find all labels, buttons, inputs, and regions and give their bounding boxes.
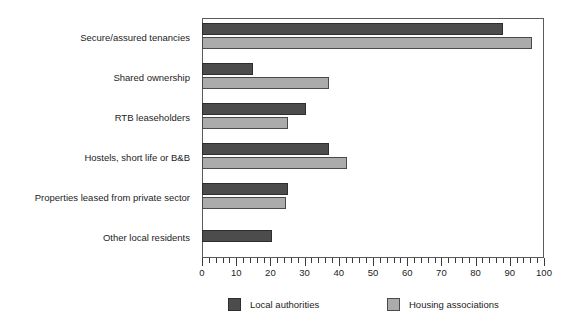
x-axis-minor-tick [352,258,353,263]
x-axis-minor-tick [387,258,388,263]
x-axis-minor-tick [318,258,319,263]
x-axis-minor-tick [250,258,251,263]
x-axis-minor-tick [311,258,312,263]
x-axis-tick-label: 90 [505,267,516,279]
x-axis-minor-tick [291,258,292,263]
x-axis-minor-tick [216,258,217,263]
x-axis-minor-tick [284,258,285,263]
x-axis-minor-tick [489,258,490,263]
x-axis-major-tick [544,258,545,266]
x-axis-ticks [202,258,544,266]
x-axis-minor-tick [448,258,449,263]
x-axis-minor-tick [469,258,470,263]
x-axis-minor-tick [394,258,395,263]
x-axis-tick-label: 80 [470,267,481,279]
x-axis-minor-tick [523,258,524,263]
x-axis-tick-label: 10 [231,267,242,279]
category-label: Other local residents [0,232,190,243]
x-axis-major-tick [305,258,306,266]
x-axis-tick-label: 70 [436,267,447,279]
x-axis-tick-label: 60 [402,267,413,279]
x-axis-tick-labels: 0102030405060708090100 [202,267,544,281]
bar [202,197,286,209]
x-axis-minor-tick [346,258,347,263]
x-axis-minor-tick [298,258,299,263]
legend-label: Local authorities [250,299,319,311]
legend-swatch-icon [387,298,400,311]
x-axis-major-tick [202,258,203,266]
bar [202,117,288,129]
bar [202,103,306,115]
x-axis-minor-tick [359,258,360,263]
plot-area [202,18,544,258]
bar [202,77,329,89]
chart-legend: Local authoritiesHousing associations [202,298,544,318]
x-axis-minor-tick [380,258,381,263]
x-axis-minor-tick [229,258,230,263]
x-axis-minor-tick [482,258,483,263]
x-axis-minor-tick [435,258,436,263]
bar [202,143,329,155]
x-axis-tick-label: 30 [299,267,310,279]
x-axis-minor-tick [243,258,244,263]
category-label: Secure/assured tenancies [0,32,190,43]
bar [202,230,272,242]
x-axis-minor-tick [332,258,333,263]
x-axis-minor-tick [462,258,463,263]
bar-chart: Secure/assured tenanciesShared ownership… [0,0,568,333]
x-axis-minor-tick [277,258,278,263]
x-axis-minor-tick [421,258,422,263]
x-axis-minor-tick [325,258,326,263]
bar [202,157,347,169]
x-axis-minor-tick [496,258,497,263]
category-label: Shared ownership [0,72,190,83]
category-label: Hostels, short life or B&B [0,152,190,163]
legend-item[interactable]: Local authorities [228,298,319,311]
x-axis-tick-label: 100 [536,267,552,279]
x-axis-minor-tick [414,258,415,263]
x-axis-tick-label: 50 [368,267,379,279]
x-axis-tick-label: 20 [265,267,276,279]
x-axis-minor-tick [537,258,538,263]
x-axis-minor-tick [503,258,504,263]
x-axis-minor-tick [400,258,401,263]
bar [202,23,503,35]
x-axis-major-tick [236,258,237,266]
x-axis-minor-tick [428,258,429,263]
x-axis-minor-tick [257,258,258,263]
x-axis-tick-label: 0 [199,267,204,279]
x-axis-major-tick [270,258,271,266]
x-axis-minor-tick [209,258,210,263]
legend-item[interactable]: Housing associations [387,298,499,311]
x-axis-major-tick [510,258,511,266]
legend-swatch-icon [228,298,241,311]
bar [202,63,253,75]
x-axis-major-tick [407,258,408,266]
x-axis-minor-tick [530,258,531,263]
category-label: Properties leased from private sector [0,192,190,203]
x-axis-minor-tick [223,258,224,263]
x-axis-major-tick [441,258,442,266]
x-axis-major-tick [339,258,340,266]
x-axis-tick-label: 40 [334,267,345,279]
x-axis-minor-tick [366,258,367,263]
x-axis-minor-tick [264,258,265,263]
legend-label: Housing associations [409,299,499,311]
x-axis-minor-tick [517,258,518,263]
category-label: RTB leaseholders [0,112,190,123]
x-axis-major-tick [373,258,374,266]
bar [202,37,532,49]
bar [202,183,288,195]
x-axis-major-tick [476,258,477,266]
category-axis-labels: Secure/assured tenanciesShared ownership… [0,18,197,258]
x-axis-minor-tick [455,258,456,263]
